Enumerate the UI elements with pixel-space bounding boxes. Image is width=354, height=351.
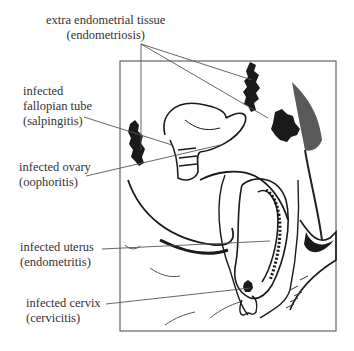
tissue-strokes <box>125 245 240 325</box>
label-endometriosis: extra endometrial tissue (endometriosis) <box>46 13 165 43</box>
fallopian-tube-ovary <box>164 103 246 180</box>
label-cervicitis-line1: infected cervix <box>26 296 101 311</box>
label-oophoritis-line1: infected ovary <box>19 160 91 175</box>
endometriosis-patches <box>128 62 300 292</box>
label-salpingitis-line1: infected <box>23 84 92 99</box>
label-salpingitis-line3: (salpingitis) <box>23 114 92 129</box>
label-endometriosis-line1: extra endometrial tissue <box>46 13 165 28</box>
label-cervicitis: infected cervix (cervicitis) <box>26 296 101 326</box>
label-endometritis-line2: (endometritis) <box>20 255 94 270</box>
label-salpingitis-line2: fallopian tube <box>23 99 92 114</box>
label-oophoritis: infected ovary (oophoritis) <box>19 160 91 190</box>
uterus <box>235 179 288 298</box>
rectum <box>286 220 336 310</box>
label-oophoritis-line2: (oophoritis) <box>19 175 91 190</box>
label-endometriosis-line2: (endometriosis) <box>46 28 165 43</box>
label-endometritis: infected uterus (endometritis) <box>20 240 94 270</box>
label-salpingitis: infected fallopian tube (salpingitis) <box>23 84 92 129</box>
label-endometritis-line1: infected uterus <box>20 240 94 255</box>
leader-lines <box>84 44 270 304</box>
label-cervicitis-line2: (cervicitis) <box>26 311 101 326</box>
cervix-vagina <box>219 175 299 318</box>
